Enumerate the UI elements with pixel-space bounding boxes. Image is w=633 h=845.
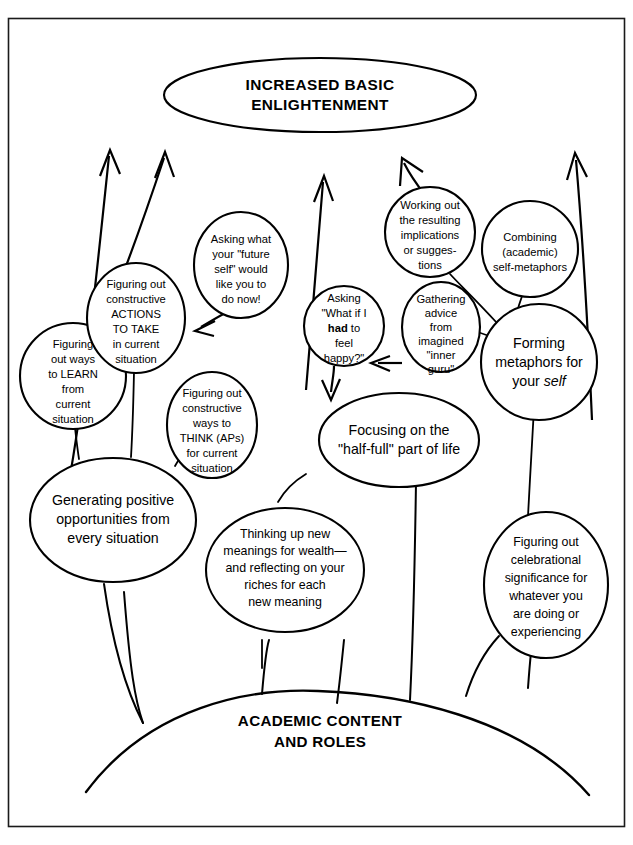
ground-banner: ACADEMIC CONTENT AND ROLES bbox=[238, 712, 403, 750]
node-line: Gathering bbox=[416, 293, 465, 305]
node-line: Generating positive bbox=[52, 492, 174, 508]
node-line: Figuring out bbox=[182, 387, 242, 399]
node-half-full: Focusing on the "half-full" part of life bbox=[319, 393, 479, 487]
node-line: experiencing bbox=[511, 625, 581, 639]
node-line: Figuring bbox=[53, 338, 93, 350]
node-line: tions bbox=[418, 259, 442, 271]
node-celebrational-significance: Figuring out celebrational significance … bbox=[484, 512, 608, 658]
node-working-out-implications: Working out the resulting implications o… bbox=[385, 187, 475, 277]
node-line: from bbox=[62, 383, 84, 395]
node-increased-basic-enlightenment: INCREASED BASIC ENLIGHTENMENT bbox=[164, 58, 476, 132]
node-line: "What if I bbox=[321, 307, 366, 319]
figure-border bbox=[9, 19, 625, 827]
node-generating-opportunities: Generating positive opportunities from e… bbox=[30, 458, 196, 582]
node-constructive-think: Figuring out constructive ways to THINK … bbox=[167, 372, 257, 478]
banner-line-2: ENLIGHTENMENT bbox=[251, 96, 389, 113]
node-thinking-new-meanings: Thinking up new meanings for wealth— and… bbox=[206, 508, 364, 632]
node-line: current bbox=[56, 398, 92, 410]
node-line: situation bbox=[52, 413, 94, 425]
node-line: self" would bbox=[214, 263, 268, 275]
node-line: metaphors for bbox=[495, 354, 583, 370]
node-line: celebrational bbox=[511, 553, 581, 567]
node-line-emphasis: had to bbox=[328, 322, 360, 334]
node-line: Working out bbox=[400, 199, 460, 211]
node-line: ways to bbox=[192, 417, 231, 429]
node-line: Combining bbox=[503, 231, 556, 243]
node-line: TO TAKE bbox=[113, 323, 160, 335]
node-line: whatever you bbox=[508, 589, 583, 603]
node-line: imagined bbox=[418, 335, 463, 347]
node-line: self-metaphors bbox=[493, 261, 567, 273]
node-line: situation bbox=[115, 353, 157, 365]
ground-line-2: AND ROLES bbox=[274, 733, 366, 750]
node-line: Focusing on the bbox=[349, 422, 450, 438]
node-line: do now! bbox=[221, 293, 260, 305]
node-future-self: Asking what your "future self" would lik… bbox=[194, 212, 288, 318]
node-line-emphasis: your self bbox=[512, 373, 568, 389]
node-line: implications bbox=[401, 229, 460, 241]
node-line: "inner bbox=[427, 349, 456, 361]
node-line: ACTIONS bbox=[111, 308, 161, 320]
node-line: constructive bbox=[182, 402, 242, 414]
node-line: are doing or bbox=[513, 607, 579, 621]
node-line: new meaning bbox=[248, 595, 322, 609]
node-line: meanings for wealth— bbox=[223, 544, 347, 558]
node-line: "half-full" part of life bbox=[338, 441, 460, 457]
node-line: significance for bbox=[505, 571, 588, 585]
node-line: Asking bbox=[327, 292, 361, 304]
node-inner-guru: Gathering advice from imagined "inner gu… bbox=[402, 282, 480, 375]
node-line: to LEARN bbox=[48, 368, 98, 380]
node-line: Forming bbox=[513, 335, 565, 351]
node-had-to-feel-happy: Asking "What if I had to feel happy?" bbox=[304, 286, 384, 366]
node-line: from bbox=[430, 321, 452, 333]
node-line: Figuring out bbox=[513, 535, 579, 549]
node-combining-self-metaphors: Combining (academic) self-metaphors bbox=[482, 201, 578, 297]
node-line: happy?" bbox=[324, 352, 365, 364]
node-forming-metaphors: Forming metaphors for your self bbox=[481, 304, 597, 420]
banner-line-1: INCREASED BASIC bbox=[246, 76, 395, 93]
node-line: every situation bbox=[67, 530, 158, 546]
node-line: out ways bbox=[51, 353, 96, 365]
node-line: guru" bbox=[428, 363, 454, 375]
ground-line-1: ACADEMIC CONTENT bbox=[238, 712, 403, 729]
node-line: advice bbox=[425, 307, 457, 319]
node-line: situation bbox=[191, 462, 233, 474]
node-line: feel bbox=[335, 337, 353, 349]
node-line: Thinking up new bbox=[240, 527, 330, 541]
node-constructive-actions: Figuring out constructive ACTIONS TO TAK… bbox=[87, 263, 185, 373]
node-line: your "future bbox=[212, 248, 269, 260]
node-line: THINK (APs) bbox=[180, 432, 245, 444]
node-line: Figuring out bbox=[106, 278, 166, 290]
node-line: the resulting bbox=[400, 214, 461, 226]
node-line: constructive bbox=[106, 293, 166, 305]
node-line: in current bbox=[113, 338, 161, 350]
node-line: or sugges- bbox=[404, 244, 457, 256]
node-line: like you to bbox=[216, 278, 266, 290]
node-line: and reflecting on your bbox=[225, 561, 344, 575]
node-line: Asking what bbox=[211, 233, 272, 245]
enlightenment-growth-diagram: INCREASED BASIC ENLIGHTENMENT Figuring o… bbox=[0, 0, 633, 845]
node-line: opportunities from bbox=[56, 511, 170, 527]
node-line: riches for each bbox=[244, 578, 325, 592]
node-line: (academic) bbox=[502, 246, 558, 258]
node-line: for current bbox=[187, 447, 239, 459]
